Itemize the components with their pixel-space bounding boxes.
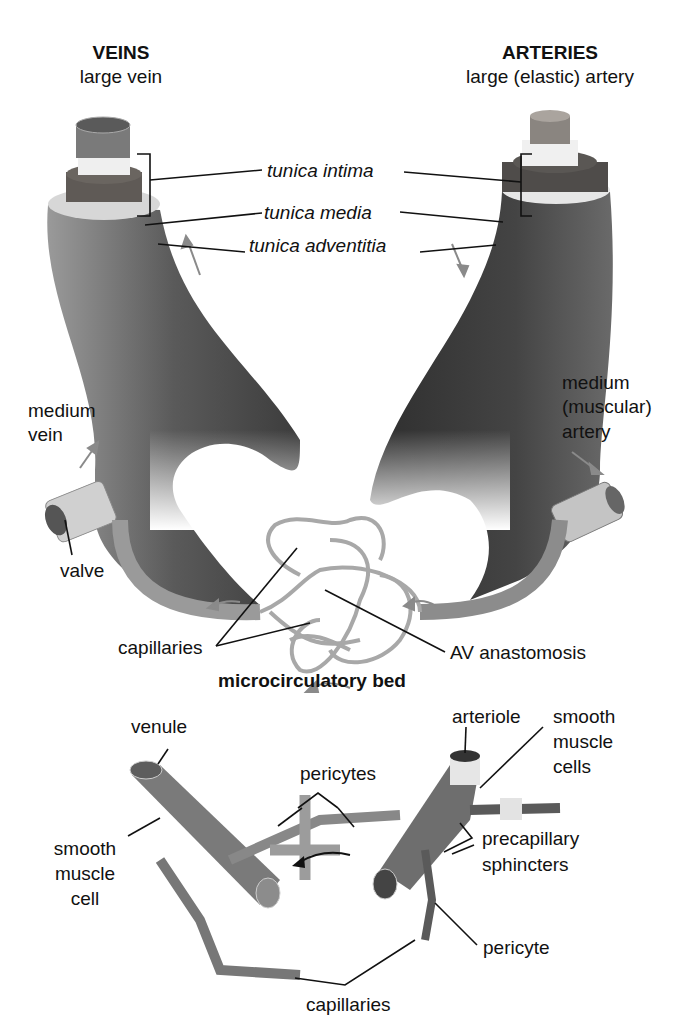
label-medium-artery-3: artery	[562, 421, 611, 443]
label-precapillary-sphincters-1: precapillary	[482, 828, 579, 850]
label-capillaries-bottom: capillaries	[306, 994, 390, 1016]
label-smooth-muscle-cells-1: smooth	[553, 706, 615, 728]
label-smooth-muscle-cells-2: muscle	[553, 731, 613, 753]
venule-illustration	[130, 761, 400, 975]
label-precapillary-sphincters-2: sphincters	[482, 854, 569, 876]
label-smooth-muscle-cell-2: muscle	[40, 863, 130, 885]
label-pericytes: pericytes	[300, 763, 376, 785]
veins-title: VEINS	[66, 42, 176, 64]
label-capillaries-top: capillaries	[118, 637, 202, 659]
fade-overlay	[150, 430, 510, 530]
label-valve: valve	[60, 560, 104, 582]
capillary-network	[260, 518, 420, 672]
label-smooth-muscle-cell-1: smooth	[40, 838, 130, 860]
large-vein	[47, 117, 300, 610]
label-microcirculatory-bed: microcirculatory bed	[218, 670, 406, 692]
label-venule: venule	[131, 716, 187, 738]
label-av-anastomosis: AV anastomosis	[450, 642, 586, 664]
label-medium-artery-2: (muscular)	[562, 396, 652, 418]
flow-arrow-head	[292, 856, 305, 868]
label-pericyte: pericyte	[483, 937, 550, 959]
label-arteriole: arteriole	[452, 706, 521, 728]
label-smooth-muscle-cells-3: cells	[553, 756, 591, 778]
arteries-title: ARTERIES	[470, 42, 630, 64]
label-tunica-intima: tunica intima	[267, 160, 374, 182]
label-medium-vein-1: medium	[28, 400, 96, 422]
label-smooth-muscle-cell-3: cell	[40, 888, 130, 910]
label-medium-artery-1: medium	[562, 372, 630, 394]
label-medium-vein-2: vein	[28, 424, 63, 446]
veins-subtitle: large vein	[46, 66, 196, 88]
label-tunica-media: tunica media	[264, 202, 372, 224]
label-tunica-adventitia: tunica adventitia	[249, 235, 386, 257]
arteries-subtitle: large (elastic) artery	[440, 66, 660, 88]
